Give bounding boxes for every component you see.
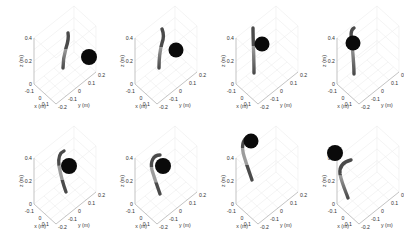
y-tick-label: 0 xyxy=(280,88,283,94)
y-tick-label: 0.1 xyxy=(189,200,196,206)
y-tick-label: -0.2 xyxy=(58,224,67,230)
z-tick-label: 0.4 xyxy=(328,35,335,41)
y-tick-label: 0.1 xyxy=(189,80,196,86)
target-sphere xyxy=(346,36,361,51)
robot-arm-curve xyxy=(351,28,354,74)
y-tick-label: -0.2 xyxy=(58,104,67,110)
z-tick-label: 0.2 xyxy=(126,58,133,64)
y-tick-label: 0.1 xyxy=(391,200,398,206)
z-axis-label: z (m) xyxy=(119,55,125,67)
x-tick-label: 0 xyxy=(38,215,41,221)
plot-panel-7: 00.20.4z (m)-0.100.1x (m)-0.2-0.100.10.2… xyxy=(202,120,303,240)
target-sphere xyxy=(81,49,97,65)
y-axis-label: y (m) xyxy=(179,222,191,228)
y-tick-label: -0.2 xyxy=(159,224,168,230)
z-axis-label: z (m) xyxy=(321,55,327,67)
z-tick-label: 0 xyxy=(29,201,32,207)
x-axis-label: x (m) xyxy=(236,103,248,109)
z-tick-label: 0.4 xyxy=(126,155,133,161)
robot-arm-curve xyxy=(159,29,164,68)
y-axis-label: y (m) xyxy=(78,222,90,228)
y-tick-label: 0.1 xyxy=(88,200,95,206)
x-axis-label: x (m) xyxy=(337,223,349,229)
z-axis-label: z (m) xyxy=(220,175,226,187)
y-tick-label: -0.1 xyxy=(371,96,380,102)
y-axis-label: y (m) xyxy=(381,222,393,228)
y-tick-label: 0 xyxy=(280,208,283,214)
plot-panel-8: 00.20.4z (m)-0.100.1x (m)-0.2-0.100.10.2… xyxy=(303,120,404,240)
x-tick-label: 0 xyxy=(38,95,41,101)
y-axis-label: y (m) xyxy=(78,102,90,108)
target-sphere xyxy=(327,145,343,161)
target-sphere xyxy=(255,37,270,52)
z-tick-label: 0.2 xyxy=(328,178,335,184)
z-tick-label: 0 xyxy=(29,81,32,87)
y-tick-label: -0.2 xyxy=(361,104,370,110)
x-tick-label: 0 xyxy=(139,215,142,221)
y-tick-label: -0.1 xyxy=(169,96,178,102)
z-tick-label: 0.2 xyxy=(25,178,32,184)
x-axis-label: x (m) xyxy=(135,103,147,109)
y-tick-label: -0.1 xyxy=(270,96,279,102)
y-tick-label: -0.1 xyxy=(371,216,380,222)
y-axis-label: y (m) xyxy=(280,102,292,108)
y-tick-label: -0.1 xyxy=(270,216,279,222)
z-tick-label: 0.2 xyxy=(328,58,335,64)
x-axis-label: x (m) xyxy=(236,223,248,229)
x-tick-label: 0 xyxy=(341,215,344,221)
y-tick-label: 0 xyxy=(78,88,81,94)
y-tick-label: -0.1 xyxy=(68,96,77,102)
plot-panel-6: 00.20.4z (m)-0.100.1x (m)-0.2-0.100.10.2… xyxy=(101,120,202,240)
y-tick-label: 0 xyxy=(381,88,384,94)
z-tick-label: 0.2 xyxy=(227,58,234,64)
x-tick-label: -0.1 xyxy=(25,208,34,214)
y-tick-label: 0 xyxy=(78,208,81,214)
z-tick-label: 0.4 xyxy=(227,155,234,161)
z-tick-label: 0 xyxy=(332,201,335,207)
robot-arm-curve xyxy=(253,28,254,73)
x-tick-label: -0.1 xyxy=(227,208,236,214)
x-tick-label: -0.1 xyxy=(328,88,337,94)
x-tick-label: 0 xyxy=(341,95,344,101)
z-tick-label: 0 xyxy=(231,81,234,87)
x-axis-label: x (m) xyxy=(135,223,147,229)
x-tick-label: -0.1 xyxy=(227,88,236,94)
plot-panel-4: 00.20.4z (m)-0.100.1x (m)-0.2-0.100.10.2… xyxy=(303,0,404,120)
x-tick-label: 0 xyxy=(240,215,243,221)
plot-panel-1: 00.20.4z (m)-0.100.1x (m)-0.2-0.100.10.2… xyxy=(0,0,101,120)
x-tick-label: 0 xyxy=(240,95,243,101)
x-tick-label: -0.1 xyxy=(126,208,135,214)
y-tick-label: -0.1 xyxy=(68,216,77,222)
x-tick-label: 0 xyxy=(139,95,142,101)
z-axis-label: z (m) xyxy=(119,175,125,187)
z-tick-label: 0.2 xyxy=(126,178,133,184)
z-axis-label: z (m) xyxy=(321,175,327,187)
x-tick-label: -0.1 xyxy=(25,88,34,94)
y-tick-label: -0.1 xyxy=(169,216,178,222)
y-tick-label: 0 xyxy=(381,208,384,214)
y-tick-label: 0.1 xyxy=(290,200,297,206)
y-tick-label: -0.2 xyxy=(159,104,168,110)
plot-panel-3: 00.20.4z (m)-0.100.1x (m)-0.2-0.100.10.2… xyxy=(202,0,303,120)
z-axis-label: z (m) xyxy=(220,55,226,67)
y-tick-label: 0.1 xyxy=(88,80,95,86)
y-axis-label: y (m) xyxy=(381,102,393,108)
x-axis-label: x (m) xyxy=(34,223,46,229)
z-tick-label: 0.2 xyxy=(25,58,32,64)
z-tick-label: 0 xyxy=(130,201,133,207)
target-sphere xyxy=(155,158,171,174)
target-sphere xyxy=(61,158,77,174)
x-axis-label: x (m) xyxy=(337,103,349,109)
z-tick-label: 0.4 xyxy=(227,35,234,41)
y-tick-label: -0.2 xyxy=(260,104,269,110)
x-tick-label: -0.1 xyxy=(328,208,337,214)
y-tick-label: 0.1 xyxy=(290,80,297,86)
z-tick-label: 0 xyxy=(130,81,133,87)
z-tick-label: 0.4 xyxy=(25,35,32,41)
x-tick-label: -0.1 xyxy=(126,88,135,94)
robot-arm-curve xyxy=(63,33,68,68)
y-tick-label: -0.2 xyxy=(260,224,269,230)
target-sphere xyxy=(169,43,184,58)
figure-grid: 00.20.4z (m)-0.100.1x (m)-0.2-0.100.10.2… xyxy=(0,0,404,240)
z-tick-label: 0 xyxy=(332,81,335,87)
